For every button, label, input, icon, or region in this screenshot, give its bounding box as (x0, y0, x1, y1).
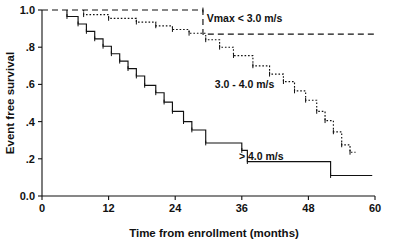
y-tick-label: 0.0 (20, 190, 35, 202)
series-label-2: 3.0 - 4.0 m/s (215, 78, 275, 90)
series-label-1: Vmax < 3.0 m/s (207, 12, 283, 24)
survival-curve-3 (67, 10, 372, 176)
x-axis-ticks: 01224364860 (39, 196, 381, 214)
x-tick-label: 60 (369, 202, 381, 214)
x-tick-label: 12 (102, 202, 114, 214)
survival-curves (42, 8, 375, 178)
y-axis-title: Event free survival (4, 52, 16, 154)
y-tick-label: .2 (26, 153, 35, 165)
axes-group (42, 10, 375, 196)
x-axis-title: Time from enrollment (months) (129, 227, 299, 239)
y-tick-label: .8 (26, 41, 35, 53)
chart-canvas: 01224364860 0.0.2.4.6.81.0 Vmax < 3.0 m/… (0, 0, 406, 246)
x-tick-label: 24 (169, 202, 182, 214)
y-tick-label: .4 (26, 116, 36, 128)
series-label-3: > 4.0 m/s (239, 150, 284, 162)
x-tick-label: 36 (236, 202, 248, 214)
y-axis-ticks: 0.0.2.4.6.81.0 (20, 4, 42, 202)
x-tick-label: 0 (39, 202, 45, 214)
series-annotations: Vmax < 3.0 m/s3.0 - 4.0 m/s> 4.0 m/s (207, 12, 284, 162)
y-tick-label: 1.0 (20, 4, 35, 16)
y-tick-label: .6 (26, 78, 35, 90)
x-tick-label: 48 (302, 202, 314, 214)
kaplan-meier-chart: 01224364860 0.0.2.4.6.81.0 Vmax < 3.0 m/… (0, 0, 406, 246)
